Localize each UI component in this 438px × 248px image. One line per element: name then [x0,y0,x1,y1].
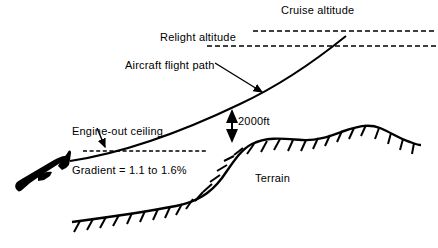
engine-out-ceiling-label: Engine-out ceiling Gradient = 1.1 to 1.6… [72,99,187,203]
flight-path-leader-arrow [215,63,262,92]
terrain-clearance-label: 2000ft [238,115,270,128]
cruise-altitude-label: Cruise altitude [281,4,354,17]
engine-out-ceiling-title: Engine-out ceiling [72,125,187,138]
aircraft-silhouette [15,151,71,192]
terrain-label: Terrain [255,172,290,185]
aircraft-flight-path-diagram: Cruise altitude Relight altitude Aircraf… [0,0,438,248]
aircraft-flight-path-label: Aircraft flight path [125,59,215,72]
relight-altitude-label: Relight altitude [160,31,236,44]
engine-out-gradient-value: Gradient = 1.1 to 1.6% [72,164,187,177]
